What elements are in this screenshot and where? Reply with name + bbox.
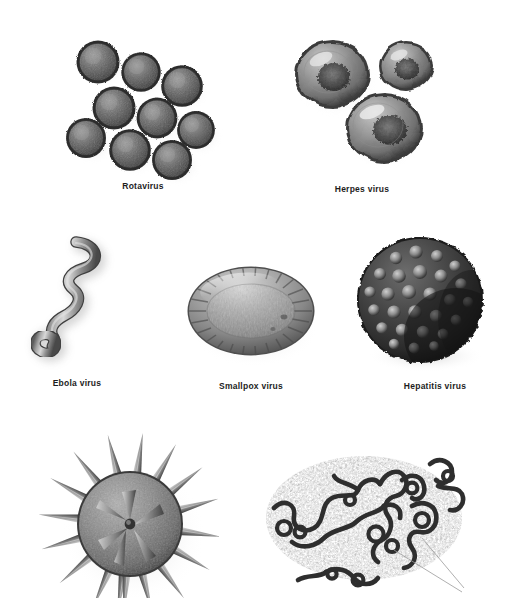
herpes-virion [295,40,369,108]
hepatitis-virus-illustration [352,232,492,374]
rotavirus-illustration [58,22,228,177]
herpes-virus-illustration [288,24,448,176]
spiked-virus-illustration [52,438,212,598]
caption-ebola-virus: Ebola virus [22,378,132,388]
ebola-virus-illustration [22,228,127,368]
caption-herpes-virus: Herpes virus [297,184,427,194]
caption-smallpox-virus: Smallpox virus [186,381,316,391]
herpes-virion [346,93,422,163]
filamentous-virus-mass-illustration [262,446,472,596]
caption-hepatitis-virus: Hepatitis virus [375,381,495,391]
caption-rotavirus: Rotavirus [78,181,208,191]
smallpox-virus-illustration [180,255,322,373]
herpes-virion [379,41,433,91]
